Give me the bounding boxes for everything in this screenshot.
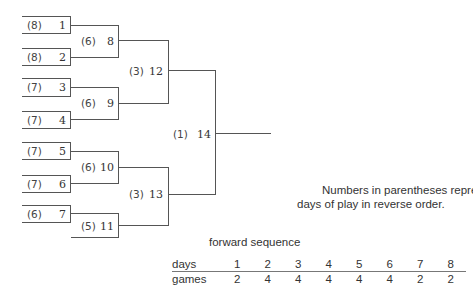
game-number-9: 9 [107, 97, 114, 110]
games-row: games 2 4 4 4 4 4 2 2 [172, 272, 466, 287]
days-row: days 1 2 3 4 5 6 7 8 [172, 257, 466, 272]
entry-day-6: (7) [27, 178, 42, 190]
legend-note: Numbers in parentheses represent days of… [300, 183, 465, 211]
day-cell: 6 [375, 257, 406, 272]
games-cell: 2 [405, 272, 436, 287]
day-cell: 4 [314, 257, 345, 272]
game-day-14: (1) [173, 128, 188, 140]
game-day-11: (5) [81, 220, 96, 232]
day-cell: 7 [405, 257, 436, 272]
games-cell: 4 [253, 272, 284, 287]
entry-day-7: (6) [27, 208, 42, 220]
game-labels: (6) 8 (6) 9 (6) 10 (5) 11 (3) 12 (3) 13 … [81, 35, 211, 233]
entry-team-1: 1 [59, 19, 66, 32]
game-day-13: (3) [129, 188, 144, 200]
day-cell: 8 [436, 257, 467, 272]
entry-team-3: 3 [59, 81, 66, 94]
game-day-12: (3) [129, 65, 144, 77]
games-label: games [172, 272, 222, 287]
entry-day-3: (7) [27, 81, 42, 93]
day-cell: 2 [253, 257, 284, 272]
entry-team-7: 7 [59, 208, 66, 221]
note-line-2: days of play in reverse order. [297, 197, 462, 211]
games-cell: 2 [222, 272, 253, 287]
games-cell: 4 [314, 272, 345, 287]
game-number-12: 12 [149, 65, 163, 78]
entry-day-2: (8) [27, 51, 42, 63]
game-number-10: 10 [100, 161, 114, 174]
entry-team-6: 6 [59, 178, 66, 191]
entry-team-5: 5 [59, 145, 66, 158]
entry-labels: (8) 1 (8) 2 (7) 3 (7) 4 (7) 5 (7) 6 (6) … [27, 19, 66, 221]
entry-team-4: 4 [59, 114, 66, 127]
entry-day-5: (7) [27, 145, 42, 157]
games-cell: 4 [283, 272, 314, 287]
games-cell: 2 [436, 272, 467, 287]
entry-day-4: (7) [27, 114, 42, 126]
game-day-9: (6) [81, 97, 96, 109]
day-cell: 3 [283, 257, 314, 272]
day-cell: 5 [344, 257, 375, 272]
forward-sequence-table: days 1 2 3 4 5 6 7 8 games 2 4 4 4 4 4 2… [172, 257, 466, 286]
round-1-connectors [71, 26, 119, 238]
game-number-14: 14 [197, 128, 211, 141]
game-number-13: 13 [149, 188, 163, 201]
entry-day-1: (8) [27, 19, 42, 31]
days-label: days [172, 257, 222, 272]
game-day-10: (6) [81, 161, 96, 173]
game-number-8: 8 [107, 35, 114, 48]
sequence-title: forward sequence [209, 236, 300, 248]
game-day-8: (6) [81, 35, 96, 47]
game-number-11: 11 [100, 220, 114, 233]
note-line-1: Numbers in parentheses represent [300, 183, 465, 197]
entry-team-2: 2 [59, 51, 66, 64]
games-cell: 4 [344, 272, 375, 287]
day-cell: 1 [222, 257, 253, 272]
games-cell: 4 [375, 272, 406, 287]
